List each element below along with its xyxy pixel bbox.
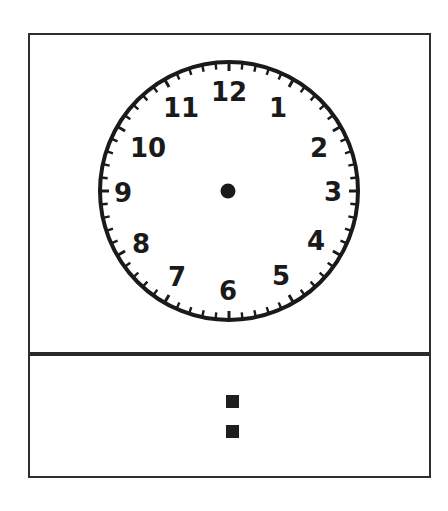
worksheet-card: 12 1 2 3 4 5 6 7 8 9 10 11 [28, 33, 431, 478]
numeral-12: 12 [211, 77, 247, 107]
colon-dot-bottom [226, 425, 239, 438]
numeral-4: 4 [307, 226, 325, 256]
minutes-blank[interactable] [255, 386, 325, 446]
numeral-6: 6 [219, 276, 237, 306]
numeral-10: 10 [130, 133, 166, 163]
numeral-5: 5 [272, 261, 290, 291]
numeral-1: 1 [269, 93, 287, 123]
digital-time-panel [30, 356, 429, 476]
numeral-2: 2 [310, 133, 328, 163]
center-dot [221, 184, 236, 199]
numeral-11: 11 [163, 93, 199, 123]
numeral-3: 3 [324, 177, 342, 207]
colon-dot-top [226, 395, 239, 408]
hours-blank[interactable] [140, 386, 210, 446]
numeral-7: 7 [168, 262, 186, 292]
numeral-8: 8 [132, 229, 150, 259]
numeral-9: 9 [114, 178, 132, 208]
analog-clock-panel: 12 1 2 3 4 5 6 7 8 9 10 11 [30, 35, 429, 352]
